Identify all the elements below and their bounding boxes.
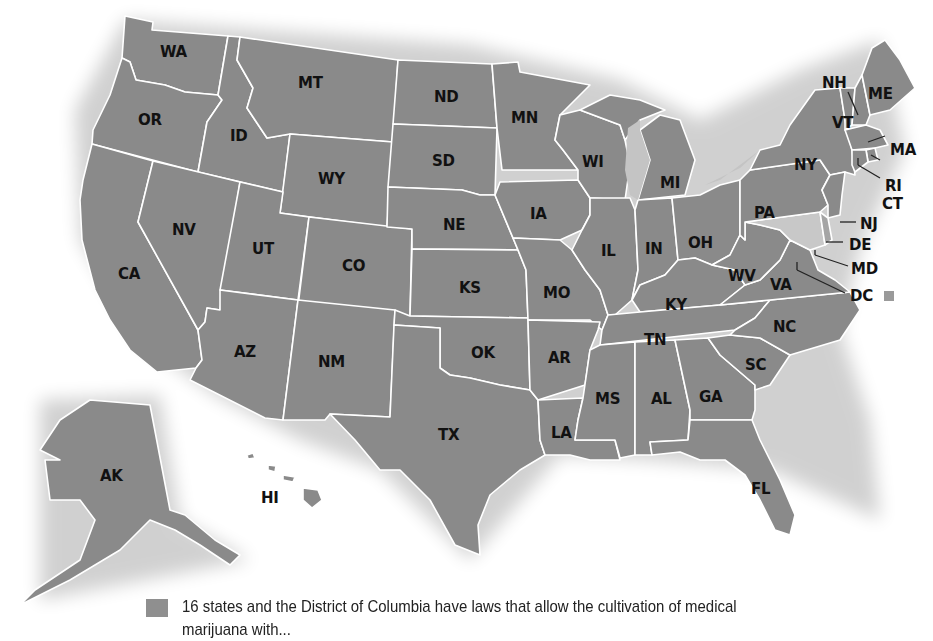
label-ct: CT [882, 195, 904, 213]
state-hi-island-4[interactable] [303, 488, 322, 508]
label-ut: UT [252, 240, 275, 258]
label-ga: GA [699, 388, 723, 406]
label-co: CO [342, 257, 365, 275]
label-or: OR [138, 111, 162, 129]
label-nc: NC [773, 318, 796, 336]
label-ok: OK [471, 344, 496, 362]
label-pa: PA [754, 204, 775, 222]
label-al: AL [651, 390, 672, 408]
label-ak: AK [100, 467, 124, 485]
label-tn: TN [644, 331, 666, 349]
legend-text-line2: marijuana with... [182, 619, 291, 641]
dc-swatch [884, 291, 894, 301]
label-vt: VT [832, 114, 854, 132]
label-wa: WA [160, 43, 188, 61]
legend: 16 states and the District of Columbia h… [146, 596, 812, 618]
label-mo: MO [543, 284, 570, 302]
label-mi: MI [660, 174, 680, 192]
state-hi-island-2[interactable] [268, 465, 276, 472]
label-ne: NE [443, 216, 465, 234]
label-il: IL [601, 242, 616, 260]
label-ia: IA [530, 205, 547, 223]
label-va: VA [770, 276, 792, 294]
label-ri: RI [885, 177, 902, 195]
label-la: LA [551, 424, 572, 442]
label-ar: AR [548, 349, 571, 367]
label-hi: HI [261, 489, 279, 507]
label-ny: NY [794, 156, 818, 174]
state-me[interactable] [862, 40, 915, 115]
label-me: ME [868, 85, 893, 103]
label-in: IN [645, 240, 663, 258]
legend-swatch [146, 599, 168, 617]
label-de: DE [849, 236, 871, 254]
label-wy: WY [318, 170, 346, 188]
label-tx: TX [438, 426, 460, 444]
label-az: AZ [234, 343, 256, 361]
label-ca: CA [118, 265, 141, 283]
label-ma: MA [890, 141, 917, 159]
label-oh: OH [688, 234, 713, 252]
label-sd: SD [432, 152, 455, 170]
label-id: ID [230, 127, 247, 145]
label-wi: WI [582, 153, 604, 171]
state-hi-island-3[interactable] [283, 475, 295, 482]
legend-text: 16 states and the District of Columbia h… [182, 596, 737, 618]
label-nv: NV [172, 221, 196, 239]
label-sc: SC [745, 356, 767, 374]
label-nj: NJ [860, 215, 878, 233]
label-mn: MN [511, 109, 538, 127]
label-fl: FL [751, 480, 771, 498]
label-ms: MS [595, 390, 620, 408]
label-wv: WV [728, 267, 756, 285]
label-md: MD [851, 260, 878, 278]
label-nd: ND [434, 88, 458, 106]
label-ky: KY [665, 296, 688, 314]
state-hi-island-1[interactable] [247, 453, 255, 459]
label-mt: MT [298, 74, 324, 92]
label-dc: DC [850, 287, 873, 305]
label-nh: NH [822, 74, 847, 92]
label-nm: NM [318, 353, 345, 371]
label-ks: KS [459, 279, 481, 297]
